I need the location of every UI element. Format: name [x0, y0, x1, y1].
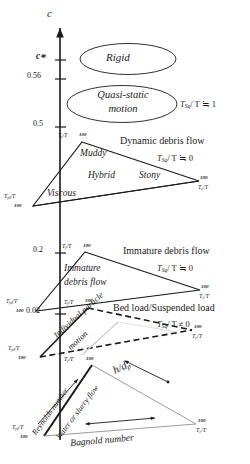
vertex-tc-100-immature: 100 — [201, 284, 209, 289]
region-immature-line1: Immature — [64, 264, 101, 274]
region-muddy: Muddy — [80, 149, 106, 159]
ratio-dynamic-tsq-t: TSq/ T ≒ 0 — [157, 154, 193, 164]
axis-label-c: c — [47, 8, 52, 19]
slash-T: /T — [14, 345, 19, 351]
slash-T: /T — [68, 299, 73, 305]
h-over-dp-arrow — [125, 361, 168, 382]
vertex-tc-t-bedload: Tc/T — [192, 333, 202, 341]
axis-tick-05: 0.5 — [33, 120, 43, 128]
diagram-canvas — [0, 0, 250, 464]
slash-T: /T — [62, 132, 67, 138]
slash-T: /T — [201, 427, 206, 433]
vertex-tf-100-water: 100 — [86, 356, 94, 361]
slash-T: /T — [10, 193, 15, 199]
vertex-tc-t-water: Tc/T — [196, 427, 206, 435]
debris-flow-classification-diagram: c c* 0.56 0.5 0.2 0.02 Rigid Quasi-stati… — [0, 0, 250, 464]
vertex-tfd-t-immature: Tfd/T — [6, 298, 17, 306]
slash-T: /T — [204, 293, 209, 299]
concentration-axis — [55, 28, 66, 440]
vertex-tf-100-immature: 100 — [83, 243, 91, 248]
vertex-tfd-t-bedload: Tfd/T — [8, 345, 19, 353]
axis-tick-002: 0.02 — [26, 307, 40, 315]
ratio-immature-tsq-t: TSq/ T ≒ 0 — [157, 264, 193, 274]
vertex-tfd-100-immature: 100 — [16, 308, 24, 313]
vertex-tfd-t-dynamic: Tfd/T — [4, 193, 15, 201]
quasi-static-label-line2: motion — [83, 104, 163, 115]
vertex-tf-t-bedload: Tf/T — [64, 299, 73, 307]
vertex-tfd-100-water: 100 — [20, 434, 28, 439]
region-immature-line2: debris flow — [64, 278, 107, 288]
cstar-asterisk: * — [40, 51, 46, 63]
vertex-tc-100-bedload: 100 — [194, 324, 202, 329]
band-title-immature-debris-flow: Immature debris flow — [123, 246, 210, 256]
rigid-label: Rigid — [106, 52, 130, 63]
vertex-tf-t-dynamic: Tf/T — [58, 132, 67, 140]
ratio-tail: / T ≒ 1 — [190, 99, 216, 109]
vertex-tfd-100-bedload: 100 — [18, 355, 26, 360]
axis-tick-cstar: c* — [36, 52, 46, 63]
slash-T: /T — [197, 333, 202, 339]
ratio-bedload-tsq-t: TSq/ T ≠ 0 — [157, 320, 190, 330]
slash-T: /T — [18, 424, 23, 430]
axis-tick-056: 0.56 — [27, 72, 41, 80]
axis-tick-02: 0.2 — [33, 246, 43, 254]
vertex-tf-100-dynamic: 100 — [79, 132, 87, 137]
region-viscous: Viscous — [47, 189, 76, 199]
ratio-tsq-t-eq-1: TSq/ T ≒ 1 — [180, 100, 216, 110]
slash-T: /T — [203, 184, 208, 190]
ratio-tail: / T ≒ 0 — [167, 263, 193, 273]
band-title-dynamic-debris-flow: Dynamic debris flow — [120, 136, 204, 146]
vertex-tc-t-dynamic: Tc/T — [198, 184, 208, 192]
vertex-tf-t-water: Tf/T — [64, 356, 73, 364]
ratio-tail: / T ≠ 0 — [167, 319, 190, 329]
ratio-tail: / T ≒ 0 — [167, 153, 193, 163]
bagnold-number-arrow — [86, 418, 155, 424]
slash-T: /T — [12, 298, 17, 304]
quasi-static-label-line1: Quasi-static — [83, 90, 163, 101]
vertex-tc-100-dynamic: 100 — [200, 175, 208, 180]
slash-T: /T — [66, 243, 71, 249]
slash-T: /T — [68, 356, 73, 362]
region-hybrid: Hybrid — [88, 171, 115, 181]
vertex-tc-t-immature: Tc/T — [199, 293, 209, 301]
vertex-tf-t-immature: Tf/T — [62, 243, 71, 251]
vertex-tfd-t-water: Tfd/T — [12, 424, 23, 432]
band-title-bed-load-suspended-load: Bed load/Suspended load — [113, 303, 215, 313]
vertex-tc-100-water: 100 — [198, 418, 206, 423]
vertex-tfd-100-dynamic: 100 — [14, 203, 22, 208]
region-stony: Stony — [139, 171, 160, 181]
